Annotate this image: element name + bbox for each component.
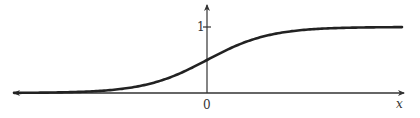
origin-label: 0	[203, 98, 211, 112]
sigmoid-chart: 1 0 x	[0, 0, 420, 118]
x-axis-label: x	[396, 97, 403, 111]
sigmoid-curve	[14, 27, 402, 93]
y-tick-label-1: 1	[197, 20, 205, 34]
